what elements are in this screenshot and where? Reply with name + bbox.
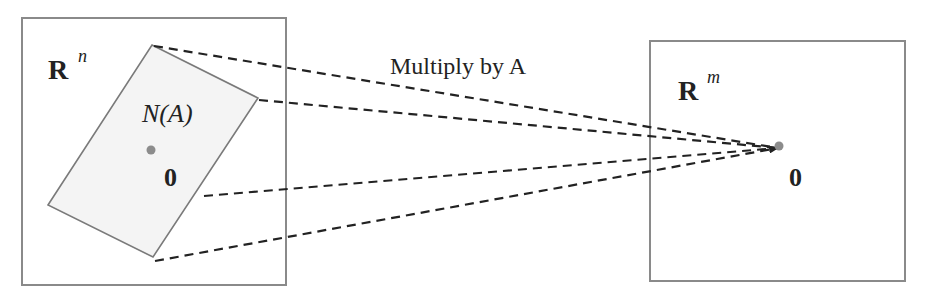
domain-space-superscript: n [78, 46, 87, 66]
domain-space-label: R [48, 54, 69, 85]
domain-zero-label: 0 [164, 163, 177, 192]
codomain-zero-dot [775, 142, 784, 151]
codomain-space-label: R [678, 75, 699, 106]
nullspace-diagram: R n N(A) 0 Multiply by A R m 0 [0, 0, 925, 303]
domain-zero-dot [147, 146, 156, 155]
codomain-space-superscript: m [707, 67, 720, 87]
nullspace-label: N(A) [141, 99, 193, 128]
codomain-zero-label: 0 [789, 163, 802, 192]
mapping-label: Multiply by A [390, 53, 527, 79]
